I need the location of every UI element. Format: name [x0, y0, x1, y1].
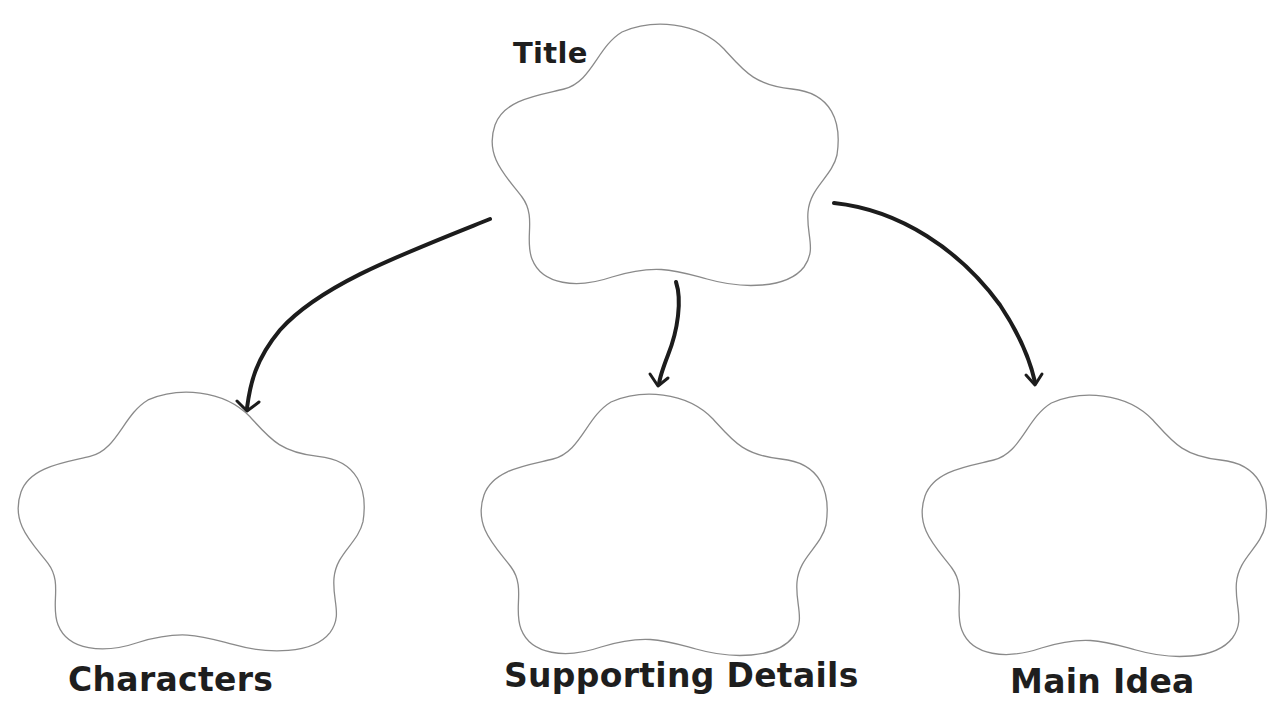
node-label-title: Title — [513, 36, 588, 70]
node-label-characters: Characters — [68, 660, 273, 699]
supporting-details-flower-shape — [481, 394, 827, 655]
arrow-title-to-main-idea-icon — [834, 203, 1042, 385]
node-label-main-idea: Main Idea — [1010, 662, 1195, 701]
arrow-title-to-supporting-details-icon — [650, 282, 679, 386]
graphic-organizer-canvas — [0, 0, 1278, 717]
main-idea-flower-shape — [922, 395, 1266, 656]
node-label-supporting-details: Supporting Details — [504, 656, 859, 695]
arrow-title-to-characters-icon — [237, 219, 490, 411]
characters-flower-shape — [18, 392, 364, 651]
